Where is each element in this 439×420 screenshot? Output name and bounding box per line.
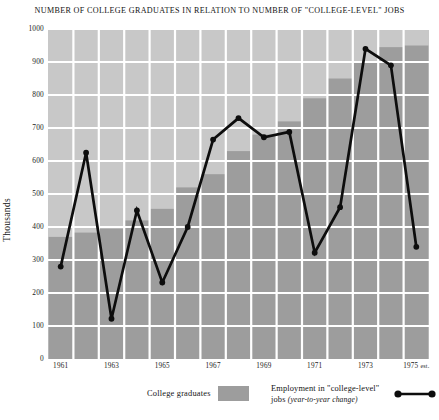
y-tick-label: 400 bbox=[0, 222, 44, 231]
legend-label-employment-sub: (year-to-year change) bbox=[288, 395, 358, 404]
y-tick-label: 0 bbox=[0, 354, 44, 363]
y-tick-label: 600 bbox=[0, 156, 44, 165]
y-tick-label: 100 bbox=[0, 321, 44, 330]
y-axis-tick-labels: 01002003004005006007008009001000 bbox=[0, 0, 44, 420]
legend-swatch-college-graduates bbox=[218, 386, 249, 401]
x-tick-label: 1973 bbox=[358, 362, 373, 370]
x-tick-label: 1961 bbox=[53, 362, 68, 370]
x-tick-label: 1965 bbox=[155, 362, 170, 370]
legend-item-college-graduates: College graduates bbox=[147, 386, 249, 401]
x-axis-tick-labels: 19611963196519671969197119731975 est. bbox=[48, 362, 439, 376]
chart-figure: NUMBER OF COLLEGE GRADUATES IN RELATION … bbox=[0, 0, 439, 420]
y-tick-label: 1000 bbox=[0, 24, 44, 33]
y-tick-label: 900 bbox=[0, 57, 44, 66]
y-tick-label: 300 bbox=[0, 255, 44, 264]
legend-marker-line-icon bbox=[393, 389, 437, 399]
legend-label-employment-line1: Employment in "college-level" bbox=[271, 384, 379, 393]
x-tick-label: 1967 bbox=[206, 362, 221, 370]
chart-legend: College graduates Employment in "college… bbox=[0, 384, 439, 414]
y-tick-label: 700 bbox=[0, 123, 44, 132]
x-tick-label: 1963 bbox=[104, 362, 119, 370]
x-tick-label: 1971 bbox=[307, 362, 322, 370]
y-tick-label: 200 bbox=[0, 288, 44, 297]
y-tick-label: 800 bbox=[0, 90, 44, 99]
legend-label-employment-line2: jobs bbox=[271, 395, 286, 404]
plot-area bbox=[48, 29, 429, 359]
chart-title: NUMBER OF COLLEGE GRADUATES IN RELATION … bbox=[0, 6, 439, 15]
legend-label-college-graduates: College graduates bbox=[147, 389, 211, 398]
y-tick-label: 500 bbox=[0, 189, 44, 198]
x-tick-label: 1969 bbox=[256, 362, 271, 370]
x-tick-label: 1975 est. bbox=[403, 362, 429, 370]
chart-svg bbox=[48, 29, 429, 359]
legend-item-employment: Employment in "college-level" jobs (year… bbox=[271, 384, 439, 406]
